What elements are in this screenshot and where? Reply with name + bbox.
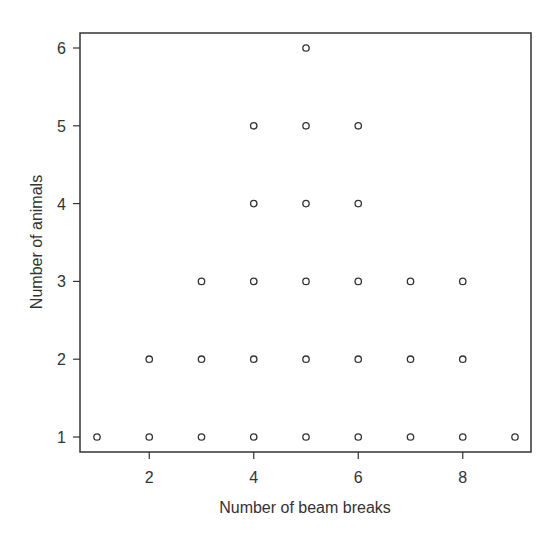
data-point-marker <box>460 356 466 362</box>
data-point-marker <box>303 123 309 129</box>
x-tick-label: 8 <box>458 469 467 486</box>
x-tick-label: 2 <box>145 469 154 486</box>
data-point-marker <box>303 356 309 362</box>
data-point-marker <box>512 434 518 440</box>
data-point-marker <box>355 200 361 206</box>
y-tick-label: 3 <box>57 273 66 290</box>
data-point-marker <box>407 278 413 284</box>
plot-area <box>80 33 531 452</box>
scatter-chart: 2468 123456 Number of beam breaks Number… <box>0 0 556 535</box>
data-point-marker <box>355 278 361 284</box>
y-axis-label: Number of animals <box>28 175 45 309</box>
data-point-marker <box>407 434 413 440</box>
y-axis: 123456 <box>57 40 80 446</box>
data-point-marker <box>355 434 361 440</box>
y-tick-label: 6 <box>57 40 66 57</box>
data-point-marker <box>303 45 309 51</box>
data-points <box>94 45 518 440</box>
data-point-marker <box>146 434 152 440</box>
data-point-marker <box>303 278 309 284</box>
data-point-marker <box>303 434 309 440</box>
data-point-marker <box>355 123 361 129</box>
data-point-marker <box>146 356 152 362</box>
x-axis: 2468 <box>145 452 468 486</box>
x-tick-label: 4 <box>249 469 258 486</box>
data-point-marker <box>407 356 413 362</box>
y-tick-label: 4 <box>57 196 66 213</box>
data-point-marker <box>355 356 361 362</box>
data-point-marker <box>460 278 466 284</box>
y-tick-label: 5 <box>57 118 66 135</box>
data-point-marker <box>251 434 257 440</box>
data-point-marker <box>198 434 204 440</box>
data-point-marker <box>460 434 466 440</box>
y-tick-label: 2 <box>57 351 66 368</box>
data-point-marker <box>198 356 204 362</box>
y-tick-label: 1 <box>57 429 66 446</box>
data-point-marker <box>251 278 257 284</box>
data-point-marker <box>251 123 257 129</box>
x-tick-label: 6 <box>354 469 363 486</box>
data-point-marker <box>251 356 257 362</box>
data-point-marker <box>251 200 257 206</box>
x-axis-label: Number of beam breaks <box>219 499 391 516</box>
data-point-marker <box>94 434 100 440</box>
data-point-marker <box>198 278 204 284</box>
data-point-marker <box>303 200 309 206</box>
